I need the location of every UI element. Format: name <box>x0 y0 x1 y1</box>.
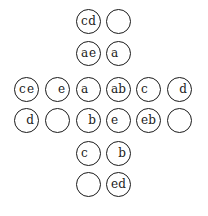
cell-right-label: e <box>27 83 34 95</box>
circle-cell-r2c2: a <box>76 77 101 102</box>
cell-left-label: e <box>111 114 118 126</box>
cell-right-label: d <box>118 178 126 190</box>
circle-cell-r3c2: b <box>76 108 101 133</box>
cell-right-label: b <box>88 114 96 126</box>
cell-right-label: e <box>58 83 65 95</box>
cell-left-label: a <box>111 47 118 59</box>
circle-cell-r2c5: d <box>167 77 192 102</box>
cell-left-label: c <box>19 83 26 95</box>
cell-left-label: a <box>81 47 88 59</box>
cell-left-label: c <box>141 83 148 95</box>
cell-right-label: b <box>148 114 156 126</box>
cell-left-label: e <box>111 178 118 190</box>
cell-left-label: c <box>81 147 88 159</box>
circle-cell-r0c3 <box>106 9 131 34</box>
circle-cell-r3c4: eb <box>136 108 161 133</box>
cell-right-label: b <box>118 83 126 95</box>
circle-cell-r3c0: d <box>14 108 39 133</box>
cell-left-label: a <box>81 83 88 95</box>
circle-cell-r2c4: c <box>136 77 161 102</box>
circle-cell-r3c1 <box>45 108 70 133</box>
circle-cell-r0c2: cd <box>76 9 101 34</box>
cell-right-label: b <box>118 147 126 159</box>
cell-right-label: d <box>88 15 96 27</box>
circle-cell-r2c0: ce <box>14 77 39 102</box>
circle-cell-r3c3: e <box>106 108 131 133</box>
circle-cell-r3c5 <box>167 108 192 133</box>
circle-cell-r2c1: e <box>45 77 70 102</box>
circle-cell-r4c2: c <box>76 141 101 166</box>
cell-left-label: c <box>81 15 88 27</box>
circle-cell-r5c2 <box>76 172 101 197</box>
cell-left-label: e <box>141 114 148 126</box>
cell-right-label: e <box>89 47 96 59</box>
cell-right-label: d <box>26 114 34 126</box>
circle-cell-r5c3: ed <box>106 172 131 197</box>
circle-cell-r2c3: ab <box>106 77 131 102</box>
circle-cell-r1c2: ae <box>76 41 101 66</box>
circle-cell-r4c3: b <box>106 141 131 166</box>
circle-cell-r1c3: a <box>106 41 131 66</box>
cell-left-label: a <box>111 83 118 95</box>
cell-right-label: d <box>179 83 187 95</box>
